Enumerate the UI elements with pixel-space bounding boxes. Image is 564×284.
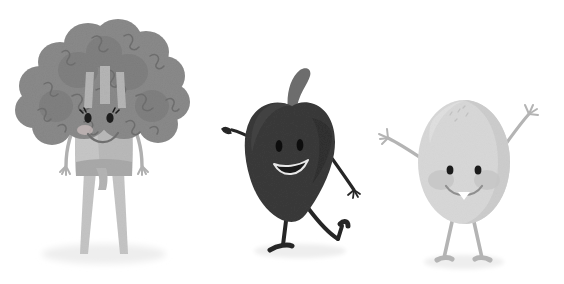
broccoli-shadow	[42, 244, 166, 264]
illustration-canvas: Three cartoon vegetable characters	[0, 0, 564, 284]
potato-left-foot	[437, 258, 452, 260]
potato-body	[418, 100, 510, 224]
vegetable-characters-illustration	[0, 0, 564, 284]
potato-right-foot	[475, 258, 490, 260]
broccoli-floret-stems	[84, 66, 126, 108]
broccoli-cheek	[77, 125, 93, 135]
